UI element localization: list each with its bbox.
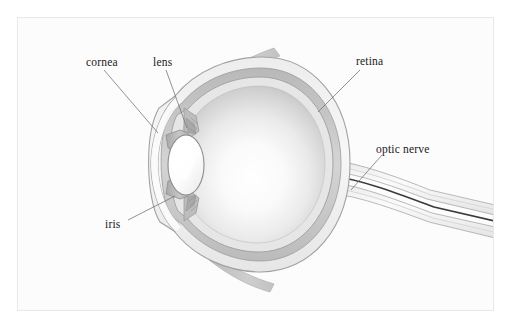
label-retina: retina bbox=[356, 55, 383, 67]
label-cornea: cornea bbox=[86, 56, 118, 68]
label-lens: lens bbox=[153, 56, 172, 68]
eye-cross-section-illustration bbox=[0, 0, 513, 329]
label-optic-nerve: optic nerve bbox=[376, 143, 430, 155]
eye-anatomy-figure: cornea lens retina optic nerve iris bbox=[0, 0, 513, 329]
optic-nerve bbox=[329, 160, 495, 238]
lens bbox=[168, 135, 204, 195]
label-iris: iris bbox=[105, 218, 121, 230]
leader-cornea bbox=[104, 70, 158, 133]
